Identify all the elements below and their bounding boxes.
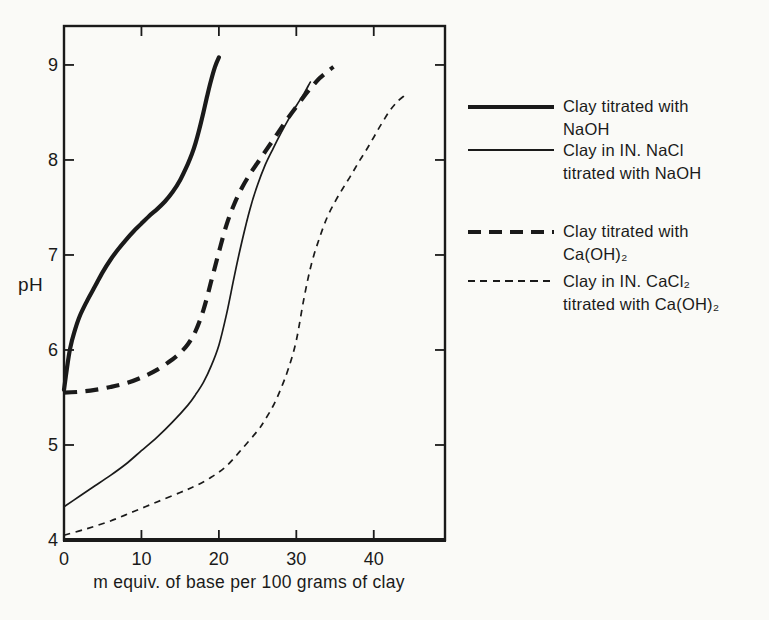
- curve-clay-caoh2: [64, 67, 334, 393]
- figure: pH m equiv. of base per 100 grams of cla…: [0, 0, 769, 620]
- legend-line-thick-solid: [468, 105, 554, 109]
- legend-label: titrated with Ca(OH)₂: [563, 293, 719, 316]
- legend-entry-clay-nacl-naoh: Clay in IN. NaCl titrated with NaOH: [468, 139, 701, 185]
- legend-line-thin-dashed: [468, 280, 554, 282]
- x-tick-label: 40: [352, 548, 396, 570]
- legend-label: Clay in IN. CaCl₂: [563, 270, 719, 293]
- legend: Clay titrated with NaOH Clay in IN. NaCl…: [468, 0, 768, 620]
- y-tick-label: 5: [18, 434, 58, 456]
- y-tick-label: 6: [18, 339, 58, 361]
- legend-line-thin-solid: [468, 149, 554, 151]
- x-tick-label: 10: [119, 548, 163, 570]
- y-axis-label: pH: [18, 274, 43, 296]
- x-tick-label: 20: [197, 548, 241, 570]
- legend-label: NaOH: [563, 118, 689, 141]
- legend-entry-clay-cacl2-caoh2: Clay in IN. CaCl₂ titrated with Ca(OH)₂: [468, 270, 719, 316]
- x-axis-label: m equiv. of base per 100 grams of clay: [64, 572, 434, 593]
- legend-label: Clay titrated with: [563, 220, 689, 243]
- legend-entry-clay-naoh: Clay titrated with NaOH: [468, 95, 689, 141]
- curve-clay-cacl2-caoh2: [64, 95, 405, 535]
- x-tick-label: 0: [42, 548, 86, 570]
- legend-label: Clay in IN. NaCl: [563, 139, 701, 162]
- legend-label: titrated with NaOH: [563, 162, 701, 185]
- curve-clay-naoh: [64, 57, 219, 390]
- legend-line-thick-dashed: [468, 230, 554, 234]
- y-tick-label: 7: [18, 244, 58, 266]
- legend-entry-clay-caoh2: Clay titrated with Ca(OH)₂: [468, 220, 689, 266]
- legend-label: Clay titrated with: [563, 95, 689, 118]
- plot-box: [64, 26, 445, 540]
- x-tick-label: 30: [274, 548, 318, 570]
- y-tick-label: 8: [18, 149, 58, 171]
- y-tick-label: 9: [18, 54, 58, 76]
- curve-clay-nacl-naoh: [64, 82, 310, 507]
- legend-label: Ca(OH)₂: [563, 243, 689, 266]
